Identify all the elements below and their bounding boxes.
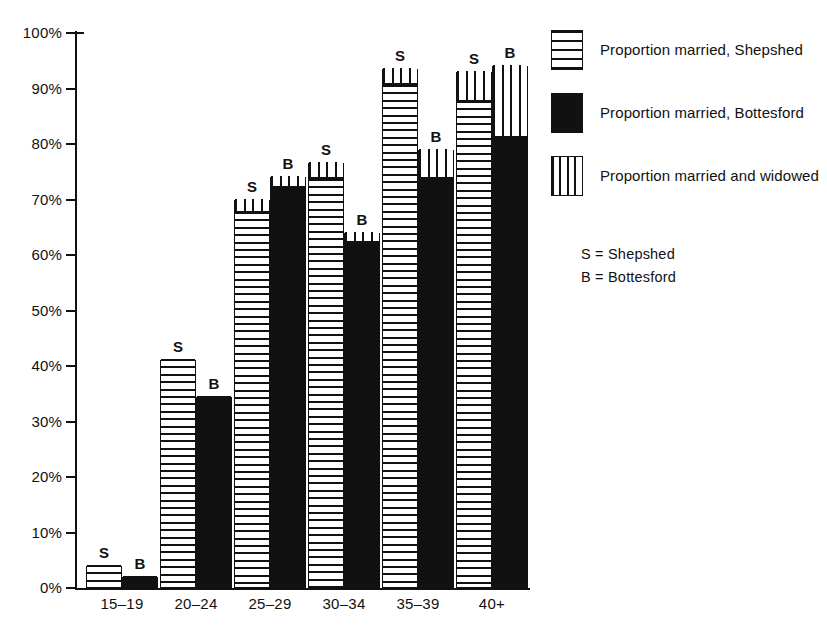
bar-segment-married — [235, 212, 269, 587]
bar-letter-b: B — [418, 129, 454, 144]
bar-25-29-bottesford — [270, 177, 306, 588]
bar-30-34-bottesford — [344, 233, 380, 588]
bar-letter-b: B — [122, 556, 158, 571]
legend-item-label: Proportion married and widowed — [600, 167, 819, 184]
bar-segment-married — [493, 137, 527, 587]
y-tick-label: 50% — [2, 303, 62, 318]
bar-letter-b: B — [492, 45, 528, 60]
bar-segment-divider — [235, 211, 269, 213]
bar-segment-divider — [345, 241, 379, 243]
legend-key-line: S = Shepshed — [581, 246, 675, 262]
y-tick-label: 0% — [2, 580, 62, 595]
bar-segment-divider — [271, 186, 305, 188]
bar-15-19-shepshed — [86, 566, 122, 588]
y-tick-mark — [66, 532, 76, 534]
bar-segment-divider — [419, 177, 453, 179]
bar-30-34-shepshed — [308, 163, 344, 588]
y-tick-mark — [66, 199, 76, 201]
bar-letter-b: B — [196, 376, 232, 391]
bar-segment-married — [161, 359, 195, 587]
bar-segment-married — [419, 179, 453, 587]
y-tick-mark — [66, 32, 76, 34]
bar-25-29-shepshed — [234, 200, 270, 589]
legend-item-label: Proportion married, Bottesford — [600, 104, 804, 121]
bar-20-24-shepshed — [160, 360, 196, 588]
bar-35-39-shepshed — [382, 69, 418, 588]
bar-segment-married — [123, 576, 157, 587]
y-tick-mark — [66, 365, 76, 367]
y-tick-label: 10% — [2, 525, 62, 540]
vertical-hatch-swatch-icon — [551, 156, 583, 196]
bar-chart: 0%10%20%30%40%50%60%70%80%90%100% 15–192… — [0, 0, 827, 631]
bar-segment-divider — [457, 100, 491, 102]
bar-letter-b: B — [270, 156, 306, 171]
bar-segment-married — [271, 187, 305, 587]
plot-area — [77, 33, 530, 588]
y-tick-label: 30% — [2, 414, 62, 429]
legend-key-line: B = Bottesford — [581, 269, 676, 285]
y-tick-mark — [66, 476, 76, 478]
bar-segment-married — [345, 243, 379, 587]
y-tick-mark — [66, 310, 76, 312]
bar-segment-divider — [309, 177, 343, 179]
horizontal-hatch-swatch-icon — [551, 30, 583, 70]
y-tick-label: 80% — [2, 136, 62, 151]
bar-segment-divider — [493, 136, 527, 138]
bar-segment-married — [87, 565, 121, 587]
legend-item-label: Proportion married, Shepshed — [600, 41, 803, 58]
bar-letter-s: S — [382, 48, 418, 63]
x-axis-label-40+: 40+ — [447, 596, 537, 612]
y-tick-label: 60% — [2, 247, 62, 262]
bar-letter-s: S — [308, 142, 344, 157]
y-tick-mark — [66, 88, 76, 90]
bar-letter-s: S — [234, 179, 270, 194]
bar-40+-bottesford — [492, 66, 528, 588]
bar-segment-married — [383, 85, 417, 587]
bar-letter-b: B — [344, 212, 380, 227]
bar-segment-divider — [383, 83, 417, 85]
y-tick-label: 40% — [2, 358, 62, 373]
y-tick-mark — [66, 421, 76, 423]
bar-20-24-bottesford — [196, 397, 232, 588]
solid-black-swatch-icon — [551, 93, 583, 133]
bar-letter-s: S — [456, 51, 492, 66]
y-tick-label: 20% — [2, 469, 62, 484]
bar-segment-married-widowed — [457, 71, 491, 102]
bar-letter-s: S — [86, 545, 122, 560]
y-tick-label: 90% — [2, 81, 62, 96]
y-tick-mark — [66, 143, 76, 145]
bar-segment-married — [309, 179, 343, 587]
bar-letter-s: S — [160, 339, 196, 354]
y-tick-label: 100% — [2, 25, 62, 40]
bar-segment-married-widowed — [493, 65, 527, 137]
bar-15-19-bottesford — [122, 577, 158, 588]
bar-segment-married-widowed — [419, 149, 453, 180]
bar-segment-married — [457, 101, 491, 587]
bar-35-39-bottesford — [418, 150, 454, 588]
y-tick-mark — [66, 587, 76, 589]
y-tick-mark — [66, 254, 76, 256]
y-tick-label: 70% — [2, 192, 62, 207]
bar-40+-shepshed — [456, 72, 492, 588]
bar-segment-married — [197, 396, 231, 587]
x-axis-line — [75, 588, 530, 590]
